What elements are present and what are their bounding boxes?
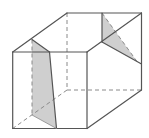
diagram-canvas xyxy=(0,0,149,138)
prism-diagram xyxy=(0,0,149,138)
bottom-right-receding-edge xyxy=(87,90,142,129)
